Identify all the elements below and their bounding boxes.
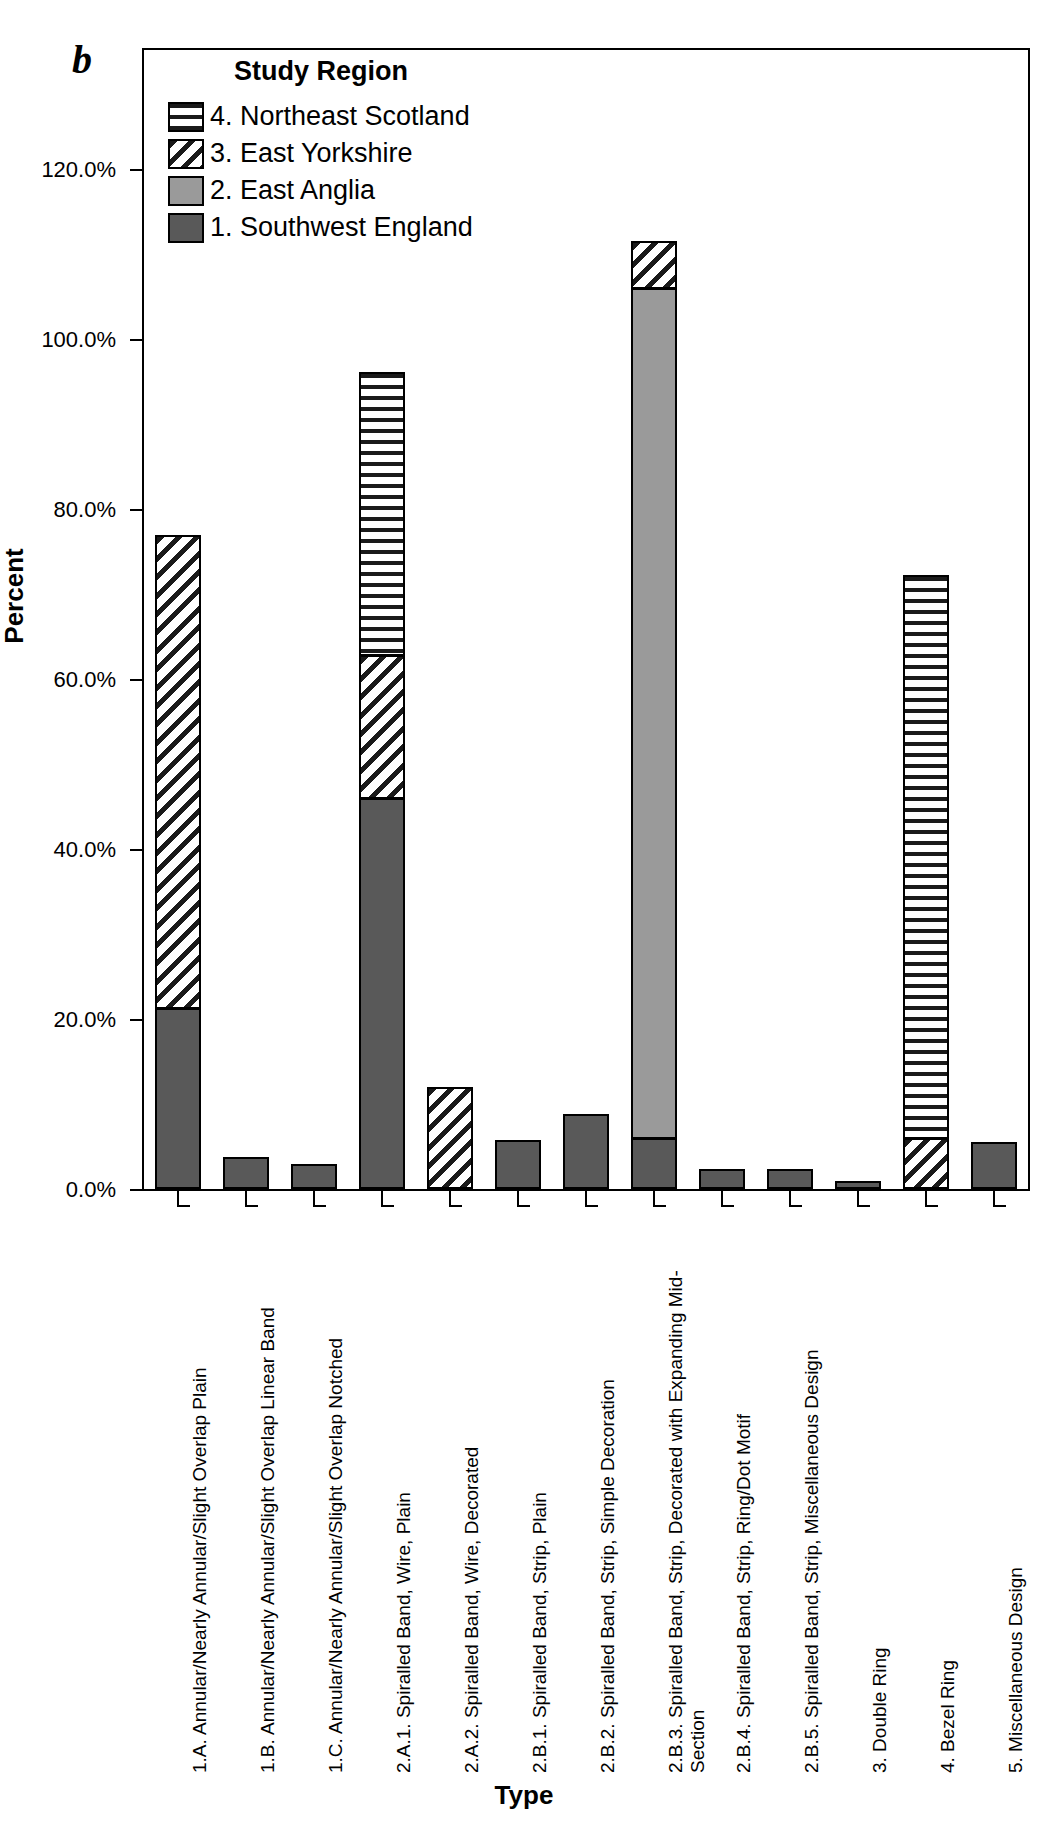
legend-swatch-icon [168,102,204,132]
x-axis-tick-stem [993,1205,1006,1207]
bar-column[interactable] [427,1087,473,1189]
bar-column[interactable] [631,241,677,1189]
legend: Study Region 4. Northeast Scotland3. Eas… [168,56,588,249]
x-axis-tick-stem [653,1205,666,1207]
x-axis-tick-label: 4. Bezel Ring [937,1213,959,1773]
bar-segment[interactable] [903,575,949,1138]
x-axis-tick-mark [721,1191,723,1205]
x-axis-tick-mark [857,1191,859,1205]
y-axis-tick-label: 20.0% [54,1007,116,1033]
x-axis-tick-mark [449,1191,451,1205]
x-axis-tick-stem [449,1205,462,1207]
legend-label: 3. East Yorkshire [210,138,413,169]
x-axis-tick-stem [517,1205,530,1207]
x-axis-tick-mark [925,1191,927,1205]
legend-label: 1. Southwest England [210,212,473,243]
x-axis-tick-stem [925,1205,938,1207]
y-axis-tick-mark [130,1189,142,1191]
legend-item[interactable]: 4. Northeast Scotland [168,101,588,132]
bar-segment[interactable] [359,798,405,1189]
bar-column[interactable] [563,1114,609,1189]
bar-segment[interactable] [495,1140,541,1189]
bar-segment[interactable] [835,1181,881,1189]
x-axis-tick-mark [177,1191,179,1205]
bar-segment[interactable] [767,1169,813,1189]
bar-segment[interactable] [631,241,677,288]
y-axis-tick-mark [130,679,142,681]
y-axis-tick-mark [130,339,142,341]
y-axis-tick-mark [130,169,142,171]
bar-column[interactable] [155,535,201,1190]
x-axis-tick-mark [653,1191,655,1205]
y-axis-tick-labels: 0.0%20.0%40.0%60.0%80.0%100.0%120.0% [0,0,138,1829]
x-axis-tick-label: 2.A.2. Spiralled Band, Wire, Decorated [461,1213,483,1773]
legend-item[interactable]: 2. East Anglia [168,175,588,206]
bar-column[interactable] [359,372,405,1189]
y-axis-tick-label: 100.0% [41,327,116,353]
x-axis-tick-label: 2.A.1. Spiralled Band, Wire, Plain [393,1213,415,1773]
x-axis-tick-label: 1.B. Annular/Nearly Annular/Slight Overl… [257,1213,279,1773]
x-axis-tick-stem [585,1205,598,1207]
x-axis-tick-stem [381,1205,394,1207]
bar-segment[interactable] [359,372,405,655]
legend-item[interactable]: 1. Southwest England [168,212,588,243]
bar-segment[interactable] [359,655,405,798]
bar-column[interactable] [835,1181,881,1189]
y-axis-tick-mark [130,509,142,511]
bar-segment[interactable] [223,1157,269,1189]
y-axis-tick-label: 0.0% [66,1177,116,1203]
x-axis-tick-mark [381,1191,383,1205]
y-axis-tick-label: 60.0% [54,667,116,693]
x-axis: 1.A. Annular/Nearly Annular/Slight Overl… [144,1191,1028,1829]
legend-item[interactable]: 3. East Yorkshire [168,138,588,169]
bar-column[interactable] [903,575,949,1189]
bar-segment[interactable] [155,1008,201,1189]
x-axis-tick-mark [517,1191,519,1205]
x-axis-tick-label: 2.B.4. Spiralled Band, Strip, Ring/Dot M… [733,1213,755,1773]
bar-column[interactable] [223,1157,269,1189]
x-axis-tick-stem [789,1205,802,1207]
x-axis-tick-label: 1.A. Annular/Nearly Annular/Slight Overl… [189,1213,211,1773]
x-axis-tick-stem [857,1205,870,1207]
y-axis-tick-mark [130,849,142,851]
legend-label: 2. East Anglia [210,175,375,206]
bar-segment[interactable] [699,1169,745,1189]
bar-segment[interactable] [291,1164,337,1190]
x-axis-tick-mark [993,1191,995,1205]
x-axis-tick-label: 2.B.5. Spiralled Band, Strip, Miscellane… [801,1213,823,1773]
bar-segment[interactable] [563,1114,609,1189]
bar-column[interactable] [767,1169,813,1189]
bar-segment[interactable] [631,288,677,1138]
chart-figure: b Percent 0.0%20.0%40.0%60.0%80.0%100.0%… [0,0,1049,1829]
legend-label: 4. Northeast Scotland [210,101,470,132]
bar-segment[interactable] [155,535,201,1008]
legend-swatch-icon [168,213,204,243]
x-axis-tick-mark [245,1191,247,1205]
bar-column[interactable] [495,1140,541,1189]
bar-segment[interactable] [427,1087,473,1189]
x-axis-tick-stem [177,1205,190,1207]
legend-rows: 4. Northeast Scotland3. East Yorkshire2.… [168,101,588,243]
bar-column[interactable] [971,1142,1017,1189]
x-axis-tick-label: 3. Double Ring [869,1213,891,1773]
x-axis-tick-stem [721,1205,734,1207]
bar-segment[interactable] [631,1138,677,1189]
x-axis-tick-stem [245,1205,258,1207]
bar-segment[interactable] [903,1138,949,1189]
x-axis-tick-label: 5. Miscellaneous Design [1005,1213,1027,1773]
x-axis-tick-stem [313,1205,326,1207]
legend-swatch-icon [168,139,204,169]
x-axis-tick-label: 1.C. Annular/Nearly Annular/Slight Overl… [325,1213,347,1773]
y-axis-tick-mark [130,1019,142,1021]
y-axis-tick-label: 120.0% [41,157,116,183]
bar-column[interactable] [699,1169,745,1189]
x-axis-tick-mark [585,1191,587,1205]
bar-segment[interactable] [971,1142,1017,1189]
y-axis-tick-label: 40.0% [54,837,116,863]
y-axis-tick-label: 80.0% [54,497,116,523]
bar-column[interactable] [291,1164,337,1190]
x-axis-tick-label: 2.B.1. Spiralled Band, Strip, Plain [529,1213,551,1773]
x-axis-tick-label: 2.B.2. Spiralled Band, Strip, Simple Dec… [597,1213,619,1773]
x-axis-tick-label: 2.B.3. Spiralled Band, Strip, Decorated … [665,1213,709,1773]
legend-swatch-icon [168,176,204,206]
